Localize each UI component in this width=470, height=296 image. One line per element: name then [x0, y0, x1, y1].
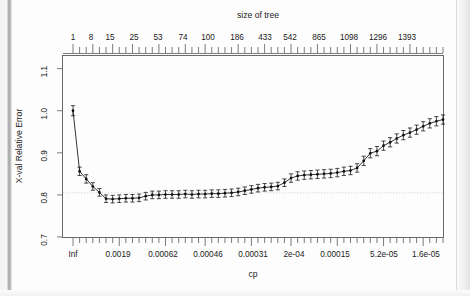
data-point: [329, 172, 332, 175]
data-point: [151, 194, 154, 197]
data-point: [428, 122, 431, 125]
data-point: [323, 173, 326, 176]
y-axis-tick-label: 1.1: [40, 65, 49, 77]
data-point: [105, 197, 108, 200]
data-point: [177, 193, 180, 196]
data-point: [85, 178, 88, 181]
top-axis-tick-marks: [63, 44, 443, 54]
data-point: [296, 175, 299, 178]
data-point: [356, 167, 359, 170]
top-axis-tick-label: 100: [201, 33, 215, 42]
data-point: [369, 152, 372, 155]
data-point: [435, 120, 438, 123]
bottom-axis-tick-label: 0.00062: [148, 250, 178, 259]
plot-frame: [63, 56, 444, 238]
top-axis-tick-label: 1296: [369, 33, 388, 42]
data-point: [78, 170, 81, 173]
data-point: [283, 181, 286, 184]
data-point: [171, 193, 174, 196]
y-axis-tick-labels: 0.70.80.91.01.1: [40, 65, 49, 245]
data-point: [422, 125, 425, 128]
data-point: [263, 186, 266, 189]
data-point: [276, 185, 279, 188]
data-point: [376, 150, 379, 153]
y-axis-tick-label: 1.0: [40, 108, 49, 120]
top-axis-tick-label: 74: [178, 33, 188, 42]
data-point: [343, 170, 346, 173]
top-axis-tick-label: 8: [89, 33, 94, 42]
data-point: [409, 131, 412, 134]
top-axis-title: size of tree: [237, 10, 279, 20]
bottom-axis-tick-labels: Inf0.00190.000620.000460.000312e-040.000…: [68, 250, 440, 259]
data-point: [98, 191, 101, 194]
top-axis-tick-label: 542: [283, 33, 297, 42]
bottom-axis-tick-label: Inf: [68, 250, 78, 259]
data-point: [217, 192, 220, 195]
data-point: [224, 192, 227, 195]
bottom-axis-tick-label: 0.0019: [105, 250, 130, 259]
data-point: [257, 187, 260, 190]
data-point: [184, 193, 187, 196]
data-point: [158, 194, 161, 197]
y-axis-tick-label: 0.8: [40, 192, 49, 204]
top-axis-tick-label: 25: [129, 33, 139, 42]
top-axis-tick-label: 433: [258, 33, 272, 42]
data-point: [210, 192, 213, 195]
data-point: [316, 173, 319, 176]
top-axis-tick-label: 1393: [398, 33, 417, 42]
data-point: [303, 174, 306, 177]
data-point: [290, 177, 293, 180]
top-axis-tick-label: 53: [153, 33, 163, 42]
data-point: [415, 128, 418, 131]
data-point: [310, 173, 313, 176]
data-point: [250, 188, 253, 191]
data-point: [131, 197, 134, 200]
data-point: [197, 193, 200, 196]
data-point: [270, 186, 273, 189]
data-point: [164, 193, 167, 196]
data-point: [125, 197, 128, 200]
top-axis-tick-label: 15: [105, 33, 115, 42]
data-point: [442, 118, 445, 121]
top-axis-tick-label: 1098: [340, 33, 359, 42]
data-point: [138, 197, 141, 200]
bottom-axis-tick-label: 1.6e-05: [412, 250, 440, 259]
data-point: [336, 171, 339, 174]
data-point: [204, 193, 207, 196]
data-point: [243, 189, 246, 192]
top-axis-tick-labels: 1815255374100186433542865109812961393: [71, 33, 417, 42]
y-axis-tick-marks: [57, 69, 63, 237]
figure-page: size of tree 181525537410018643354286510…: [0, 0, 470, 296]
data-point: [237, 191, 240, 194]
bottom-axis-tick-label: 2e-04: [284, 250, 305, 259]
top-axis-tick-label: 865: [312, 33, 326, 42]
data-point: [382, 144, 385, 147]
bottom-axis-tick-label: 5.2e-05: [370, 250, 398, 259]
data-point: [72, 109, 75, 112]
y-axis-tick-label: 0.9: [40, 150, 49, 162]
data-point: [91, 185, 94, 188]
bottom-axis-tick-label: 0.00046: [193, 250, 223, 259]
bottom-axis-tick-label: 0.00031: [238, 250, 268, 259]
bottom-axis-title: cp: [248, 269, 257, 279]
y-axis-tick-label: 0.7: [40, 234, 49, 246]
data-point: [362, 159, 365, 162]
data-point: [191, 193, 194, 196]
data-point: [402, 134, 405, 137]
data-point: [230, 191, 233, 194]
bottom-axis-tick-label: 0.00015: [320, 250, 350, 259]
data-point: [349, 169, 352, 172]
cp-plot-svg: size of tree 181525537410018643354286510…: [0, 0, 470, 296]
data-point: [389, 141, 392, 144]
top-axis-tick-label: 186: [230, 33, 244, 42]
data-point: [118, 197, 121, 200]
y-axis-title: X-val Relative Error: [14, 109, 24, 184]
top-axis-tick-label: 1: [71, 33, 76, 42]
bottom-axis-tick-marks: [73, 238, 443, 246]
data-point: [144, 195, 147, 198]
data-point: [111, 198, 114, 201]
data-point: [395, 137, 398, 140]
